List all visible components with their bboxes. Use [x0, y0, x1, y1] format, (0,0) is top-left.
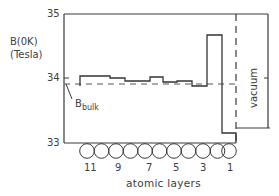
atom-circles: [80, 144, 237, 159]
y-tick-35: 35: [47, 8, 60, 19]
y-tick-34: 34: [47, 72, 60, 83]
y-tick-33: 33: [47, 137, 60, 148]
x-tick-9: 9: [115, 162, 121, 173]
y-axis-unit-label: (Tesla): [10, 49, 42, 60]
x-axis-label: atomic layers: [126, 178, 201, 189]
bulk-pointer-line: [66, 84, 72, 99]
vacuum-label: vacuum: [248, 68, 259, 108]
b-field-step-line: [80, 35, 236, 143]
chart-figure: [0, 0, 279, 196]
y-axis-label: B(0K): [10, 36, 38, 47]
x-tick-3: 3: [200, 162, 206, 173]
x-tick-1: 1: [227, 162, 233, 173]
bulk-annotation-sub: bulk: [82, 103, 99, 112]
bulk-annotation: Bbulk: [75, 98, 99, 113]
axes-frame: [64, 14, 270, 143]
x-tick-11: 11: [84, 162, 97, 173]
x-tick-7: 7: [146, 162, 152, 173]
x-tick-5: 5: [173, 162, 179, 173]
bulk-annotation-main: B: [75, 98, 82, 109]
